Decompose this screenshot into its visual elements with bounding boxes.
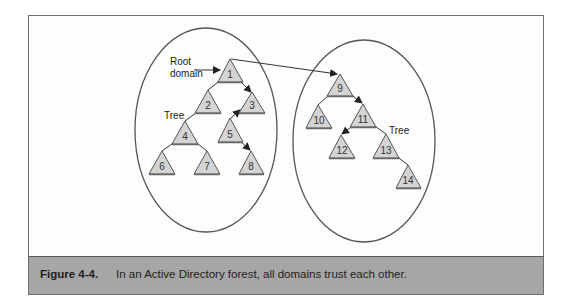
node-label-9: 9 — [337, 83, 343, 94]
tree-label-left: Tree — [164, 110, 185, 121]
node-label-8: 8 — [248, 161, 254, 172]
root-domain-label-line2: domain — [170, 68, 203, 79]
node-label-11: 11 — [358, 114, 369, 125]
left-tree-boundary — [135, 28, 277, 232]
root-domain-label-line1: Root — [170, 56, 191, 67]
node-label-13: 13 — [380, 145, 392, 156]
node-label-2: 2 — [205, 100, 211, 111]
node-label-3: 3 — [249, 100, 255, 111]
node-label-1: 1 — [227, 69, 233, 80]
figure-number: Figure 4-4. — [40, 268, 98, 280]
figure-caption: Figure 4-4. In an Active Directory fores… — [28, 256, 544, 295]
node-label-10: 10 — [313, 115, 325, 126]
node-label-7: 7 — [204, 161, 210, 172]
tree-label-right: Tree — [389, 125, 410, 136]
node-label-6: 6 — [159, 161, 165, 172]
node-label-5: 5 — [227, 129, 233, 140]
node-label-14: 14 — [402, 175, 414, 186]
figure-caption-text: In an Active Directory forest, all domai… — [116, 268, 407, 280]
node-label-12: 12 — [336, 145, 348, 156]
node-label-4: 4 — [182, 131, 188, 142]
